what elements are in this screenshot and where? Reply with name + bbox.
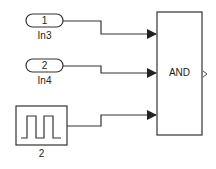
- pulse-generator-label: 2: [16, 148, 67, 159]
- output-port-icon: [203, 71, 207, 77]
- wire-pulse-to-and[interactable]: [67, 115, 156, 126]
- wire-in3-to-and[interactable]: [63, 21, 156, 34]
- inport-number-in4: 2: [26, 59, 63, 72]
- inport-label-in3: In3: [20, 30, 69, 41]
- inport-number-in3: 1: [26, 14, 63, 27]
- pulse-generator-block[interactable]: [16, 106, 67, 145]
- and-operator-label: AND: [157, 67, 202, 78]
- wire-in4-to-and[interactable]: [63, 66, 156, 73]
- inport-label-in4: In4: [20, 75, 69, 86]
